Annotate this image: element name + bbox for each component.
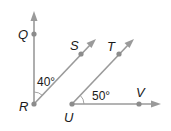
point-u: [69, 101, 74, 106]
point-t: [116, 51, 121, 56]
point-r: [31, 101, 36, 106]
angle-arc-qrs: [34, 92, 42, 95]
label-v: V: [136, 85, 146, 100]
arrow-head-uv: [151, 101, 161, 108]
angle-label-qrs: 40°: [37, 75, 55, 89]
point-s: [78, 51, 83, 56]
point-q: [31, 31, 36, 36]
label-q: Q: [18, 27, 28, 42]
label-r: R: [19, 99, 28, 114]
angle-diagram: Q S T V R U 40° 50°: [0, 0, 171, 131]
label-s: S: [70, 38, 79, 53]
angle-arc-tuv: [80, 95, 84, 104]
label-t: T: [107, 39, 116, 54]
angle-label-tuv: 50°: [92, 89, 110, 103]
arrow-head-rq: [31, 11, 38, 21]
label-u: U: [64, 110, 74, 125]
point-v: [136, 101, 141, 106]
